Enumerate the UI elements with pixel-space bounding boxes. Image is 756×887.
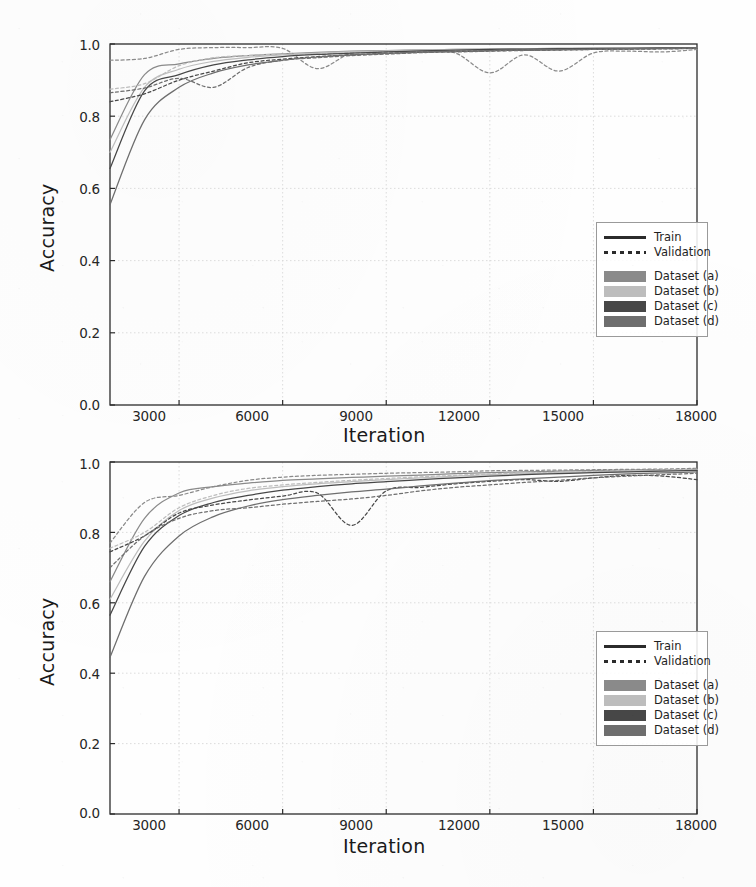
color-swatch-icon bbox=[604, 316, 646, 327]
x-tick-label: 9000 bbox=[321, 408, 391, 424]
y-tick-label: 0.6 bbox=[58, 596, 100, 612]
series-line bbox=[110, 48, 697, 92]
y-tick-label: 0.0 bbox=[58, 805, 100, 821]
legend-label: Train bbox=[654, 232, 682, 244]
legend-label: Dataset (c) bbox=[654, 301, 718, 313]
x-tick-label: 6000 bbox=[217, 408, 287, 424]
y-axis-title: Accuracy bbox=[36, 184, 58, 272]
chart-legend: Train Validation Dataset (a) Dataset (b)… bbox=[596, 631, 708, 746]
series-line bbox=[110, 470, 697, 600]
color-swatch-icon bbox=[604, 695, 646, 706]
legend-item-dataset-c: Dataset (c) bbox=[604, 299, 698, 314]
color-swatch-icon bbox=[604, 271, 646, 282]
x-tick-label: 15000 bbox=[528, 408, 598, 424]
legend-item-dataset-d: Dataset (d) bbox=[604, 723, 698, 738]
x-tick-label: 15000 bbox=[528, 817, 598, 833]
legend-item-dataset-a: Dataset (a) bbox=[604, 678, 698, 693]
legend-item-dataset-b: Dataset (b) bbox=[604, 693, 698, 708]
y-tick-label: 0.4 bbox=[58, 666, 100, 682]
legend-item-dataset-a: Dataset (a) bbox=[604, 269, 698, 284]
legend-label: Dataset (c) bbox=[654, 710, 718, 722]
color-swatch-icon bbox=[604, 710, 646, 721]
y-axis-title: Accuracy bbox=[36, 598, 58, 686]
x-tick-label: 18000 bbox=[661, 408, 731, 424]
chart-panel-bottom: 1.0 0.8 0.6 0.4 0.2 0.0 3000 6000 9000 1… bbox=[0, 443, 756, 886]
solid-line-icon bbox=[604, 232, 646, 244]
legend-label: Dataset (d) bbox=[654, 725, 719, 737]
legend-label: Dataset (d) bbox=[654, 316, 719, 328]
y-tick-label: 0.2 bbox=[58, 325, 100, 341]
x-tick-label: 12000 bbox=[424, 408, 494, 424]
legend-label: Train bbox=[654, 641, 682, 653]
y-tick-label: 0.6 bbox=[58, 181, 100, 197]
legend-separator bbox=[604, 669, 698, 678]
legend-item-train: Train bbox=[604, 230, 698, 245]
color-swatch-icon bbox=[604, 286, 646, 297]
series-line bbox=[110, 48, 697, 140]
x-tick-label: 12000 bbox=[424, 817, 494, 833]
legend-item-dataset-c: Dataset (c) bbox=[604, 708, 698, 723]
color-swatch-icon bbox=[604, 725, 646, 736]
dotted-line-icon bbox=[604, 656, 646, 668]
series-line bbox=[110, 48, 697, 205]
solid-line-icon bbox=[604, 641, 646, 653]
legend-label: Dataset (a) bbox=[654, 271, 719, 283]
series-line bbox=[110, 48, 697, 153]
legend-label: Dataset (b) bbox=[654, 286, 719, 298]
x-tick-label: 9000 bbox=[321, 817, 391, 833]
x-tick-label: 18000 bbox=[661, 817, 731, 833]
legend-label: Validation bbox=[654, 247, 711, 259]
series-line bbox=[110, 48, 697, 101]
legend-label: Dataset (a) bbox=[654, 680, 719, 692]
legend-separator bbox=[604, 260, 698, 269]
legend-item-dataset-b: Dataset (b) bbox=[604, 284, 698, 299]
series-line bbox=[110, 468, 697, 543]
x-axis-title: Iteration bbox=[343, 835, 425, 857]
color-swatch-icon bbox=[604, 301, 646, 312]
y-tick-label: 0.8 bbox=[58, 526, 100, 542]
y-tick-label: 0.0 bbox=[58, 397, 100, 413]
y-tick-label: 1.0 bbox=[58, 37, 100, 53]
series-line bbox=[110, 48, 697, 169]
series-line bbox=[110, 475, 697, 551]
legend-label: Dataset (b) bbox=[654, 695, 719, 707]
chart-panel-top: 1.0 0.8 0.6 0.4 0.2 0.0 3000 6000 9000 1… bbox=[0, 0, 756, 443]
y-tick-label: 0.4 bbox=[58, 253, 100, 269]
legend-item-validation: Validation bbox=[604, 245, 698, 260]
x-tick-label: 3000 bbox=[114, 408, 184, 424]
y-tick-label: 1.0 bbox=[58, 456, 100, 472]
x-tick-label: 3000 bbox=[114, 817, 184, 833]
y-tick-label: 0.2 bbox=[58, 736, 100, 752]
series-line bbox=[110, 470, 697, 615]
series-line bbox=[110, 469, 697, 582]
y-tick-label: 0.8 bbox=[58, 109, 100, 125]
legend-item-validation: Validation bbox=[604, 654, 698, 669]
legend-item-dataset-d: Dataset (d) bbox=[604, 314, 698, 329]
x-tick-label: 6000 bbox=[217, 817, 287, 833]
legend-item-train: Train bbox=[604, 639, 698, 654]
legend-label: Validation bbox=[654, 656, 711, 668]
dotted-line-icon bbox=[604, 247, 646, 259]
chart-legend: Train Validation Dataset (a) Dataset (b)… bbox=[596, 222, 708, 337]
color-swatch-icon bbox=[604, 680, 646, 691]
